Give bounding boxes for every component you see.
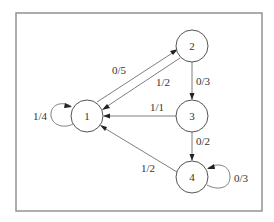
node-3: 3 (176, 100, 208, 132)
edge-label-2-to-3: 0/3 (196, 75, 211, 87)
diagram-frame (16, 13, 262, 211)
edge-label-3-to-4: 0/2 (196, 135, 210, 147)
edge-label-4-self-loop: 0/3 (234, 172, 249, 184)
node-1-label: 1 (84, 110, 90, 122)
state-diagram: 0/5 1/2 0/3 1/1 0/2 1/2 1/4 0/3 (0, 0, 274, 222)
node-1: 1 (71, 100, 103, 132)
edge-label-1-to-2: 0/5 (112, 64, 127, 76)
edge-label-2-to-1: 1/2 (156, 76, 170, 88)
arrowhead-3-to-1 (103, 114, 110, 119)
node-2: 2 (176, 30, 208, 62)
arrowhead-3-to-4 (190, 154, 195, 161)
edges: 0/5 1/2 0/3 1/1 0/2 1/2 1/4 0/3 (33, 49, 249, 188)
edge-label-1-self-loop: 1/4 (33, 110, 48, 122)
nodes: 1 2 3 4 (71, 30, 208, 193)
arrowhead-4-self-loop (207, 164, 215, 169)
node-4: 4 (176, 161, 208, 193)
edge-4-to-1 (101, 126, 177, 172)
edge-label-3-to-1: 1/1 (150, 101, 164, 113)
arrowhead-2-to-3 (190, 93, 195, 100)
edge-label-4-to-1: 1/2 (141, 162, 155, 174)
arrowhead-4-to-1 (100, 125, 107, 131)
node-2-label: 2 (189, 40, 195, 52)
node-3-label: 3 (189, 110, 195, 122)
node-4-label: 4 (189, 171, 195, 183)
